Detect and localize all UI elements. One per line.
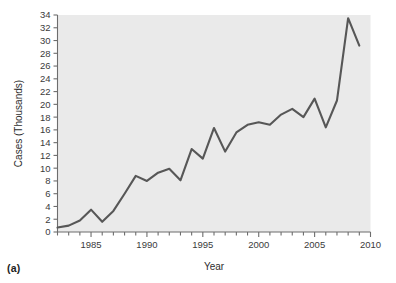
y-tick-label: 20 (40, 99, 51, 110)
y-tick-label: 34 (40, 9, 51, 20)
x-tick-label: 1995 (192, 239, 213, 250)
y-tick-label: 22 (40, 86, 51, 97)
y-tick-label: 10 (40, 163, 51, 174)
y-tick-label: 30 (40, 35, 51, 46)
y-tick-label: 18 (40, 112, 51, 123)
y-tick-label: 32 (40, 22, 51, 33)
x-tick-label: 2005 (304, 239, 325, 250)
line-chart: 0246810121416182022242628303234198519901… (0, 0, 396, 283)
y-tick-label: 28 (40, 48, 51, 59)
y-tick-label: 24 (40, 73, 51, 84)
y-tick-label: 0 (45, 226, 50, 237)
y-tick-label: 26 (40, 60, 51, 71)
x-axis-title: Year (204, 261, 225, 272)
y-tick-label: 14 (40, 137, 51, 148)
panel-caption: (a) (7, 262, 20, 274)
y-tick-label: 16 (40, 124, 51, 135)
figure-panel: 0246810121416182022242628303234198519901… (0, 0, 396, 283)
x-tick-label: 2010 (360, 239, 381, 250)
x-tick-label: 1985 (80, 239, 101, 250)
y-tick-label: 12 (40, 150, 51, 161)
y-axis-title: Cases (Thousands) (13, 80, 24, 167)
y-tick-label: 8 (45, 175, 50, 186)
y-tick-label: 6 (45, 188, 50, 199)
y-tick-label: 4 (45, 201, 50, 212)
x-tick-label: 2000 (248, 239, 269, 250)
x-tick-label: 1990 (136, 239, 157, 250)
y-tick-label: 2 (45, 214, 50, 225)
